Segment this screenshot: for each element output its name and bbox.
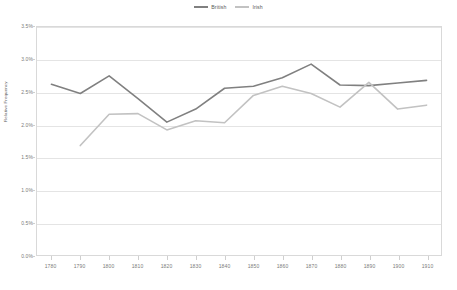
y-tick-mark [32,157,35,158]
x-axis-ticks: 1780179018001810182018301840185018601870… [36,256,442,278]
y-tick-label: 1.0% [1,187,33,193]
x-tick-mark [80,256,81,260]
y-tick-mark [32,125,35,126]
y-tick-label: 2.0% [1,122,33,128]
x-tick-mark [399,256,400,260]
x-tick-mark [167,256,168,260]
x-tick-mark [312,256,313,260]
x-tick-mark [51,256,52,260]
series-lines [37,27,441,255]
y-tick-label: 2.5% [1,89,33,95]
y-tick-label: 1.5% [1,154,33,160]
y-tick-mark [32,26,35,27]
x-tick-label: 1910 [411,263,445,269]
series-line-british [51,64,426,122]
legend-label-irish: Irish [252,4,262,10]
y-tick-mark [32,190,35,191]
x-tick-mark [196,256,197,260]
y-tick-label: 0.0% [1,253,33,259]
y-axis-ticks: 3.5%3.0%2.5%2.0%1.5%1.0%0.5%0.0% [0,26,33,256]
x-tick-mark [109,256,110,260]
legend-label-british: British [211,4,226,10]
line-chart: British Irish Relative Frequency 3.5%3.0… [0,0,457,290]
x-tick-mark [254,256,255,260]
plot-area [36,26,442,256]
y-tick-mark [32,256,35,257]
y-tick-mark [32,223,35,224]
legend-swatch-british [194,6,208,8]
chart-legend: British Irish [0,4,457,10]
y-tick-label: 3.0% [1,56,33,62]
y-tick-mark [32,59,35,60]
x-tick-mark [283,256,284,260]
y-tick-mark [32,92,35,93]
x-tick-mark [370,256,371,260]
series-line-irish [80,82,426,145]
y-tick-label: 3.5% [1,23,33,29]
x-tick-mark [225,256,226,260]
y-tick-label: 0.5% [1,220,33,226]
legend-entry-british[interactable]: British [194,4,226,10]
legend-entry-irish[interactable]: Irish [235,4,262,10]
x-tick-mark [428,256,429,260]
legend-swatch-irish [235,6,249,8]
x-tick-mark [341,256,342,260]
x-tick-mark [138,256,139,260]
